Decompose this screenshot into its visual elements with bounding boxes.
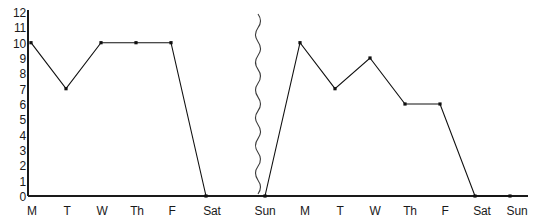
plot-area [0, 0, 533, 222]
data-point-marker [298, 41, 301, 44]
data-point-marker [99, 41, 102, 44]
data-point-marker [134, 41, 137, 44]
data-point-marker [508, 194, 511, 197]
data-point-marker [438, 102, 441, 105]
axis-break-squiggle-icon [256, 14, 261, 194]
data-line-week-1 [31, 43, 206, 196]
data-point-marker [263, 194, 266, 197]
data-point-marker [473, 194, 476, 197]
data-point-marker [368, 56, 371, 59]
data-line-week-2 [265, 43, 510, 196]
data-point-marker [29, 41, 32, 44]
data-point-marker [333, 87, 336, 90]
data-point-marker [64, 87, 67, 90]
line-chart: 12 11 10 9 8 7 6 5 4 3 2 1 0 M T W Th F … [0, 0, 533, 222]
data-point-marker [403, 102, 406, 105]
data-point-marker [169, 41, 172, 44]
data-point-marker [204, 194, 207, 197]
